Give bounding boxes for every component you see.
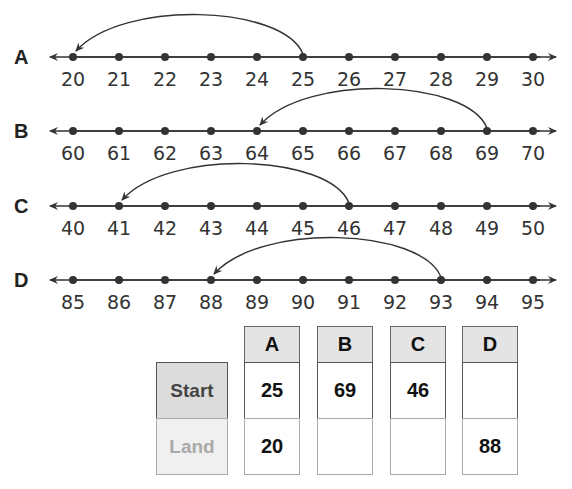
tick-dot bbox=[299, 202, 307, 210]
tick-dot bbox=[345, 276, 353, 284]
number-line-d: D8586878889909192939495 bbox=[14, 238, 556, 313]
tick-label: 30 bbox=[521, 68, 545, 90]
tick-label: 62 bbox=[153, 142, 177, 164]
tick-dot bbox=[345, 127, 353, 135]
tick-dot bbox=[253, 202, 261, 210]
tick-dot bbox=[207, 127, 215, 135]
tick-dot bbox=[115, 53, 123, 61]
tick-label: 27 bbox=[383, 68, 407, 90]
row-label: A bbox=[14, 46, 28, 68]
tick-dot bbox=[345, 202, 353, 210]
tick-label: 48 bbox=[429, 217, 453, 239]
tick-dot bbox=[115, 202, 123, 210]
tick-label: 90 bbox=[291, 291, 315, 313]
tick-label: 95 bbox=[521, 291, 545, 313]
tick-dot bbox=[483, 53, 491, 61]
tick-dot bbox=[69, 127, 77, 135]
number-line-b: B6061626364656667686970 bbox=[14, 89, 556, 164]
tick-dot bbox=[161, 53, 169, 61]
tick-label: 28 bbox=[429, 68, 453, 90]
start-cell-a[interactable]: 25 bbox=[244, 362, 300, 419]
tick-dot bbox=[253, 276, 261, 284]
tick-dot bbox=[483, 127, 491, 135]
land-cell-a[interactable]: 20 bbox=[244, 418, 300, 475]
tick-dot bbox=[161, 202, 169, 210]
tick-dot bbox=[69, 276, 77, 284]
tick-dot bbox=[391, 53, 399, 61]
tick-dot bbox=[437, 53, 445, 61]
tick-label: 70 bbox=[521, 142, 545, 164]
tick-dot bbox=[299, 53, 307, 61]
tick-label: 50 bbox=[521, 217, 545, 239]
row-label: B bbox=[14, 120, 28, 142]
tick-dot bbox=[391, 202, 399, 210]
tick-label: 44 bbox=[245, 217, 269, 239]
tick-label: 26 bbox=[337, 68, 361, 90]
row-label-start: Start bbox=[156, 362, 228, 419]
tick-label: 60 bbox=[61, 142, 85, 164]
tick-label: 66 bbox=[337, 142, 361, 164]
tick-label: 41 bbox=[107, 217, 131, 239]
tick-label: 85 bbox=[61, 291, 85, 313]
tick-dot bbox=[391, 127, 399, 135]
tick-dot bbox=[529, 276, 537, 284]
tick-label: 69 bbox=[475, 142, 499, 164]
tick-label: 45 bbox=[291, 217, 315, 239]
tick-label: 92 bbox=[383, 291, 407, 313]
tick-dot bbox=[437, 276, 445, 284]
tick-label: 94 bbox=[475, 291, 499, 313]
tick-label: 22 bbox=[153, 68, 177, 90]
start-cell-d[interactable] bbox=[462, 362, 518, 419]
row-label: D bbox=[14, 269, 28, 291]
tick-label: 88 bbox=[199, 291, 223, 313]
tick-label: 63 bbox=[199, 142, 223, 164]
tick-dot bbox=[253, 127, 261, 135]
tick-dot bbox=[437, 202, 445, 210]
tick-label: 40 bbox=[61, 217, 85, 239]
tick-label: 91 bbox=[337, 291, 361, 313]
tick-label: 86 bbox=[107, 291, 131, 313]
tick-label: 61 bbox=[107, 142, 131, 164]
column-header-b: B bbox=[317, 326, 373, 363]
tick-dot bbox=[115, 127, 123, 135]
tick-label: 93 bbox=[429, 291, 453, 313]
row-label: C bbox=[14, 195, 28, 217]
tick-label: 21 bbox=[107, 68, 131, 90]
tick-dot bbox=[529, 127, 537, 135]
tick-dot bbox=[299, 276, 307, 284]
tick-dot bbox=[253, 53, 261, 61]
tick-dot bbox=[483, 276, 491, 284]
tick-label: 46 bbox=[337, 217, 361, 239]
tick-label: 67 bbox=[383, 142, 407, 164]
tick-label: 47 bbox=[383, 217, 407, 239]
tick-dot bbox=[115, 276, 123, 284]
tick-dot bbox=[207, 202, 215, 210]
tick-dot bbox=[391, 276, 399, 284]
tick-label: 24 bbox=[245, 68, 269, 90]
tick-dot bbox=[207, 276, 215, 284]
tick-label: 29 bbox=[475, 68, 499, 90]
jump-arrow bbox=[76, 15, 303, 54]
tick-dot bbox=[529, 202, 537, 210]
land-cell-c[interactable] bbox=[390, 418, 446, 475]
jump-arrow bbox=[214, 238, 441, 277]
number-line-a: A2021222324252627282930 bbox=[14, 15, 556, 90]
start-cell-b[interactable]: 69 bbox=[317, 362, 373, 419]
land-cell-d[interactable]: 88 bbox=[462, 418, 518, 475]
tick-dot bbox=[299, 127, 307, 135]
tick-label: 25 bbox=[291, 68, 315, 90]
tick-label: 42 bbox=[153, 217, 177, 239]
tick-label: 23 bbox=[199, 68, 223, 90]
start-cell-c[interactable]: 46 bbox=[390, 362, 446, 419]
column-header-a: A bbox=[244, 326, 300, 363]
land-cell-b[interactable] bbox=[317, 418, 373, 475]
row-label-land: Land bbox=[156, 418, 228, 475]
tick-dot bbox=[69, 53, 77, 61]
tick-label: 65 bbox=[291, 142, 315, 164]
number-line-c: C4041424344454647484950 bbox=[14, 164, 556, 239]
tick-label: 43 bbox=[199, 217, 223, 239]
tick-label: 64 bbox=[245, 142, 269, 164]
column-header-d: D bbox=[462, 326, 518, 363]
tick-label: 49 bbox=[475, 217, 499, 239]
column-header-c: C bbox=[390, 326, 446, 363]
